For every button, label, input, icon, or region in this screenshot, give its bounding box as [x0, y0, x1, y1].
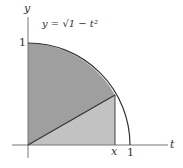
t-tick-one: 1 — [127, 147, 134, 158]
t-tick-x: x — [111, 146, 117, 157]
quarter-circle-diagram: y t 1 x 1 y = √1 − t² — [0, 0, 183, 168]
y-tick-one: 1 — [19, 37, 26, 48]
y-axis-label: y — [24, 3, 30, 14]
t-axis-label: t — [170, 139, 174, 150]
curve-equation-label: y = √1 − t² — [42, 19, 98, 29]
